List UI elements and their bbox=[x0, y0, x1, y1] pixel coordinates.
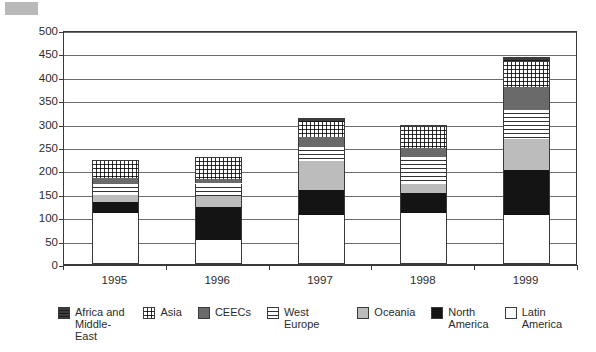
y-axis-tick-label: 450 bbox=[39, 48, 58, 60]
bar-segment-1995-latin-america[interactable] bbox=[92, 213, 139, 264]
bar-segment-1995-oceania[interactable] bbox=[92, 195, 139, 202]
y-axis-tick bbox=[59, 243, 64, 244]
y-axis-tick-label: 150 bbox=[39, 189, 58, 201]
bar-segment-1997-ceecs[interactable] bbox=[298, 137, 345, 147]
x-axis-label-1996: 1996 bbox=[204, 274, 230, 286]
bar-segment-1998-west-europe[interactable] bbox=[400, 157, 447, 185]
legend-item-latin-america[interactable]: Latin America bbox=[505, 306, 562, 330]
y-axis-tick-label: 500 bbox=[39, 25, 58, 37]
legend-label: Africa and Middle-East bbox=[75, 306, 127, 342]
y-axis-tick bbox=[59, 32, 64, 33]
y-axis-tick bbox=[59, 219, 64, 220]
legend-label: CEECs bbox=[215, 306, 251, 318]
bar-segment-1996-asia[interactable] bbox=[195, 158, 242, 179]
legend-item-west-europe[interactable]: West Europe bbox=[267, 306, 341, 330]
bar-segment-1999-ceecs[interactable] bbox=[503, 87, 550, 109]
bar-segment-1998-oceania[interactable] bbox=[400, 184, 447, 193]
bar-1999[interactable] bbox=[503, 30, 550, 264]
legend-swatch-icon bbox=[198, 307, 210, 319]
legend-item-asia[interactable]: Asia bbox=[143, 306, 181, 319]
y-axis-tick bbox=[59, 126, 64, 127]
x-axis-tick bbox=[577, 265, 578, 270]
x-axis-tick bbox=[63, 265, 64, 270]
bar-segment-1999-asia[interactable] bbox=[503, 62, 550, 87]
bar-1997[interactable] bbox=[298, 30, 345, 264]
y-axis-tick-label: 350 bbox=[39, 95, 58, 107]
bar-segment-1995-asia[interactable] bbox=[92, 161, 139, 178]
y-axis-tick bbox=[59, 172, 64, 173]
bar-segment-1997-oceania[interactable] bbox=[298, 161, 345, 190]
y-axis-tick bbox=[59, 196, 64, 197]
bar-1995[interactable] bbox=[92, 30, 139, 264]
y-axis-tick bbox=[59, 79, 64, 80]
x-axis-label-1997: 1997 bbox=[307, 274, 333, 286]
y-axis-tick bbox=[59, 55, 64, 56]
y-axis-tick-label: 200 bbox=[39, 165, 58, 177]
legend-label: North America bbox=[448, 306, 488, 330]
bar-segment-1997-latin-america[interactable] bbox=[298, 215, 345, 264]
bar-segment-1996-north-america[interactable] bbox=[195, 207, 242, 240]
bar-segment-1998-ceecs[interactable] bbox=[400, 148, 447, 157]
bar-segment-1995-west-europe[interactable] bbox=[92, 184, 139, 194]
corner-marker-block bbox=[5, 2, 38, 15]
bar-segment-1998-asia[interactable] bbox=[400, 127, 447, 148]
legend-item-north-america[interactable]: North America bbox=[431, 306, 488, 330]
legend-label: Latin America bbox=[522, 306, 562, 330]
bar-segment-1999-africa-and-middle-east[interactable] bbox=[503, 57, 550, 62]
bar-segment-1997-africa-and-middle-east[interactable] bbox=[298, 118, 345, 122]
bar-segment-1995-north-america[interactable] bbox=[92, 202, 139, 214]
bar-segment-1999-latin-america[interactable] bbox=[503, 215, 550, 264]
legend-item-oceania[interactable]: Oceania bbox=[357, 306, 415, 319]
legend-swatch-icon bbox=[58, 307, 70, 319]
bar-segment-1999-north-america[interactable] bbox=[503, 170, 550, 214]
x-axis-tick bbox=[474, 265, 475, 270]
y-axis-tick-label: 0 bbox=[52, 259, 58, 271]
bar-segment-1996-ceecs[interactable] bbox=[195, 179, 242, 184]
chart-legend: Africa and Middle-EastAsiaCEECsWest Euro… bbox=[58, 306, 578, 346]
bar-segment-1998-africa-and-middle-east[interactable] bbox=[400, 125, 447, 127]
legend-item-africa-and-middle-east[interactable]: Africa and Middle-East bbox=[58, 306, 127, 342]
x-axis-tick bbox=[269, 265, 270, 270]
plot-area bbox=[63, 31, 577, 265]
x-axis-tick bbox=[371, 265, 372, 270]
bar-1996[interactable] bbox=[195, 30, 242, 264]
legend-swatch-icon bbox=[267, 307, 279, 319]
bar-segment-1996-latin-america[interactable] bbox=[195, 240, 242, 264]
bar-segment-1998-north-america[interactable] bbox=[400, 193, 447, 213]
bar-segment-1995-africa-and-middle-east[interactable] bbox=[92, 160, 139, 161]
legend-swatch-icon bbox=[431, 307, 443, 319]
legend-label: Asia bbox=[160, 306, 181, 318]
bar-segment-1996-africa-and-middle-east[interactable] bbox=[195, 157, 242, 158]
bar-segment-1996-oceania[interactable] bbox=[195, 196, 242, 207]
y-axis-tick-label: 50 bbox=[45, 236, 58, 248]
bar-segment-1996-west-europe[interactable] bbox=[195, 184, 242, 197]
bar-segment-1998-latin-america[interactable] bbox=[400, 213, 447, 264]
legend-swatch-icon bbox=[143, 307, 155, 319]
bar-segment-1997-north-america[interactable] bbox=[298, 190, 345, 215]
y-axis-tick-label: 250 bbox=[39, 142, 58, 154]
legend-label: West Europe bbox=[284, 306, 341, 330]
y-axis-tick-label: 100 bbox=[39, 212, 58, 224]
bar-segment-1999-west-europe[interactable] bbox=[503, 110, 550, 139]
y-axis-tick-label: 300 bbox=[39, 119, 58, 131]
bar-segment-1997-asia[interactable] bbox=[298, 122, 345, 137]
bar-segment-1999-oceania[interactable] bbox=[503, 139, 550, 170]
x-axis-line bbox=[63, 265, 577, 266]
legend-swatch-icon bbox=[505, 307, 517, 319]
y-axis-tick bbox=[59, 102, 64, 103]
x-axis-label-1999: 1999 bbox=[513, 274, 539, 286]
legend-item-ceecs[interactable]: CEECs bbox=[198, 306, 251, 319]
y-axis-tick bbox=[59, 149, 64, 150]
y-axis-labels: 050100150200250300350400450500 bbox=[25, 31, 58, 265]
bar-1998[interactable] bbox=[400, 30, 447, 264]
bar-segment-1997-west-europe[interactable] bbox=[298, 147, 345, 161]
y-axis-tick-label: 400 bbox=[39, 72, 58, 84]
x-axis-tick bbox=[166, 265, 167, 270]
x-axis-label-1998: 1998 bbox=[410, 274, 436, 286]
legend-swatch-icon bbox=[357, 307, 369, 319]
bar-segment-1995-ceecs[interactable] bbox=[92, 178, 139, 185]
legend-label: Oceania bbox=[374, 306, 415, 318]
x-axis-label-1995: 1995 bbox=[102, 274, 128, 286]
chart-page: 050100150200250300350400450500 199519961… bbox=[0, 0, 596, 352]
